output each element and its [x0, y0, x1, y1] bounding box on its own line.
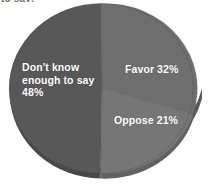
- slice-label-favor: Favor 32%: [125, 63, 205, 76]
- pie-chart: Don't know enough to say 48% Favor 32% O…: [0, 0, 217, 195]
- slice-label-dontknow: Don't know enough to say 48%: [22, 61, 100, 99]
- slice-label-oppose: Oppose 21%: [114, 114, 204, 127]
- separator-top: [102, 4, 103, 89]
